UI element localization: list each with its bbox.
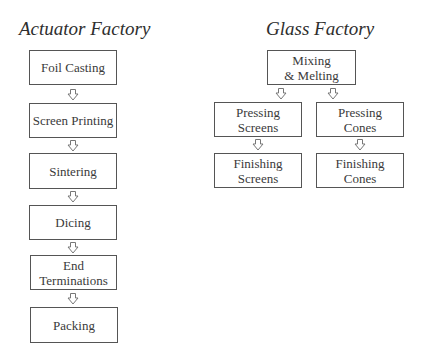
step-label: Finishing Screens	[233, 156, 282, 186]
down-arrow-icon	[252, 139, 264, 151]
step-mixing-melting: Mixing & Melting	[267, 50, 356, 85]
step-label: Mixing & Melting	[284, 53, 339, 83]
down-arrow-icon	[327, 88, 339, 100]
down-arrow-icon	[67, 191, 79, 203]
step-screen-printing: Screen Printing	[29, 103, 117, 138]
step-label: Dicing	[55, 215, 90, 230]
down-arrow-icon	[354, 139, 366, 151]
step-pressing-cones: Pressing Cones	[316, 102, 404, 137]
step-pressing-screens: Pressing Screens	[214, 102, 302, 137]
step-label: End Terminations	[39, 258, 107, 288]
step-label: Pressing Cones	[338, 105, 382, 135]
step-dicing: Dicing	[29, 205, 117, 240]
step-finishing-cones: Finishing Cones	[316, 153, 404, 188]
step-label: Packing	[53, 318, 95, 333]
down-arrow-icon	[67, 89, 79, 101]
step-sintering: Sintering	[29, 153, 117, 189]
step-label: Sintering	[49, 164, 97, 179]
glass-factory-title: Glass Factory	[266, 18, 374, 40]
step-label: Screen Printing	[33, 113, 114, 128]
step-packing: Packing	[30, 307, 118, 343]
down-arrow-icon	[67, 242, 79, 254]
down-arrow-icon	[275, 88, 287, 100]
step-end-terminations: End Terminations	[30, 255, 117, 290]
step-label: Finishing Cones	[335, 156, 384, 186]
step-label: Foil Casting	[41, 60, 105, 75]
down-arrow-icon	[67, 140, 79, 152]
step-label: Pressing Screens	[236, 105, 280, 135]
step-finishing-screens: Finishing Screens	[214, 153, 302, 188]
step-foil-casting: Foil Casting	[29, 50, 117, 85]
down-arrow-icon	[67, 293, 79, 305]
actuator-factory-title: Actuator Factory	[19, 18, 150, 40]
